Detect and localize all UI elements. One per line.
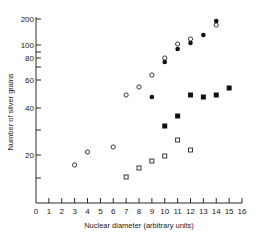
y-tick-label: 40 — [25, 104, 34, 113]
open-circle-marker — [124, 93, 128, 97]
x-tick-label: 13 — [199, 207, 208, 216]
x-tick-label: 7 — [124, 207, 129, 216]
filled-square-marker — [201, 95, 206, 100]
filled-circle-marker — [214, 19, 219, 24]
x-tick-label: 16 — [238, 207, 247, 216]
scatter-chart: 01234567891011121314151620406080100200 N… — [0, 0, 258, 234]
y-tick-label: 20 — [25, 151, 34, 160]
open-circle-marker — [188, 37, 192, 41]
x-tick-label: 12 — [186, 207, 195, 216]
x-tick-label: 9 — [150, 207, 155, 216]
x-tick-label: 6 — [111, 207, 116, 216]
filled-circle-marker — [150, 95, 155, 100]
open-square-marker — [176, 138, 180, 142]
filled-circle-marker — [201, 33, 206, 38]
axes: 01234567891011121314151620406080100200 — [21, 15, 247, 216]
x-tick-label: 5 — [98, 207, 103, 216]
x-tick-label: 1 — [47, 207, 52, 216]
x-tick-label: 11 — [173, 207, 182, 216]
x-tick-label: 14 — [212, 207, 221, 216]
open-circle-marker — [163, 56, 167, 60]
data-points — [73, 19, 232, 179]
filled-square-marker — [188, 93, 193, 98]
x-tick-label: 8 — [137, 207, 142, 216]
open-square-marker — [150, 159, 154, 163]
filled-square-marker — [175, 114, 180, 119]
open-square-marker — [137, 166, 141, 170]
open-circle-marker — [137, 85, 141, 89]
x-tick-label: 0 — [34, 207, 39, 216]
filled-square-marker — [227, 86, 232, 91]
x-tick-label: 2 — [60, 207, 65, 216]
filled-circle-marker — [162, 60, 167, 65]
filled-circle-marker — [175, 47, 180, 52]
filled-square-marker — [214, 93, 219, 98]
open-circle-marker — [214, 23, 218, 27]
open-circle-marker — [176, 42, 180, 46]
open-square-marker — [189, 148, 193, 152]
y-tick-label: 60 — [25, 76, 34, 85]
y-tick-label: 100 — [21, 41, 35, 50]
filled-circle-marker — [188, 41, 193, 46]
open-circle-marker — [85, 150, 89, 154]
y-tick-label: 200 — [21, 15, 35, 24]
open-circle-marker — [111, 145, 115, 149]
open-square-marker — [124, 175, 128, 179]
y-axis-label: Number of silver grains — [6, 73, 15, 150]
x-axis-label: Nuclear diameter (arbitrary units) — [84, 221, 194, 230]
y-tick-label: 80 — [25, 54, 34, 63]
x-tick-label: 15 — [225, 207, 234, 216]
x-tick-label: 4 — [85, 207, 90, 216]
open-circle-marker — [150, 73, 154, 77]
filled-square-marker — [162, 124, 167, 129]
x-tick-label: 3 — [72, 207, 77, 216]
open-circle-marker — [73, 163, 77, 167]
open-square-marker — [163, 154, 167, 158]
x-tick-label: 10 — [160, 207, 169, 216]
